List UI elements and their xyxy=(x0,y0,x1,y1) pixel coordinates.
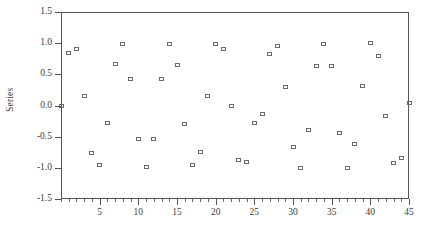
x-axis-minor-tick xyxy=(200,199,201,202)
y-axis-tick-label: 0.5 xyxy=(18,69,52,79)
x-axis-minor-tick xyxy=(347,199,348,202)
y-axis-tick xyxy=(55,43,61,44)
x-axis-minor-tick xyxy=(401,199,402,202)
y-axis-tick xyxy=(55,137,61,138)
x-axis-minor-tick xyxy=(92,199,93,202)
x-axis-minor-tick xyxy=(308,199,309,202)
x-axis-tick xyxy=(177,199,178,205)
x-axis-minor-tick xyxy=(386,199,387,202)
x-axis-tick xyxy=(138,199,139,205)
x-axis-tick-label: 45 xyxy=(397,207,421,217)
x-axis-minor-tick xyxy=(115,199,116,202)
x-axis-tick-label: 35 xyxy=(320,207,344,217)
x-axis-minor-tick xyxy=(278,199,279,202)
x-axis-tick xyxy=(293,199,294,205)
y-axis-tick xyxy=(55,12,61,13)
x-axis-minor-tick xyxy=(378,199,379,202)
scatter-chart-figure: Series 1.51.00.50.0-0.5-1.0-1.5 51015202… xyxy=(0,0,428,245)
x-axis-minor-tick xyxy=(208,199,209,202)
x-axis-tick xyxy=(370,199,371,205)
x-axis-tick xyxy=(409,199,410,205)
x-axis-tick-label: 15 xyxy=(165,207,189,217)
x-axis-minor-tick xyxy=(162,199,163,202)
x-axis-minor-tick xyxy=(285,199,286,202)
x-axis-tick-label: 40 xyxy=(358,207,382,217)
x-axis-minor-tick xyxy=(355,199,356,202)
x-axis-tick xyxy=(216,199,217,205)
x-axis-minor-tick xyxy=(270,199,271,202)
x-axis-minor-tick xyxy=(262,199,263,202)
y-axis-tick xyxy=(55,74,61,75)
x-axis-minor-tick xyxy=(131,199,132,202)
x-axis-minor-tick xyxy=(192,199,193,202)
x-axis-minor-tick xyxy=(84,199,85,202)
x-axis-minor-tick xyxy=(169,199,170,202)
x-axis-minor-tick xyxy=(301,199,302,202)
x-axis-minor-tick xyxy=(247,199,248,202)
x-axis-tick-label: 20 xyxy=(204,207,228,217)
y-axis-tick-label: -0.5 xyxy=(18,132,52,142)
y-axis-tick xyxy=(55,168,61,169)
x-axis-minor-tick xyxy=(239,199,240,202)
plot-area xyxy=(61,12,409,199)
x-axis-tick xyxy=(100,199,101,205)
x-axis-tick-label: 25 xyxy=(242,207,266,217)
x-axis-minor-tick xyxy=(123,199,124,202)
x-axis-minor-tick xyxy=(76,199,77,202)
x-axis-tick xyxy=(254,199,255,205)
y-axis-tick-label: -1.0 xyxy=(18,163,52,173)
x-axis-minor-tick xyxy=(394,199,395,202)
x-axis-minor-tick xyxy=(339,199,340,202)
y-axis-tick xyxy=(55,106,61,107)
y-axis-tick-label: -1.5 xyxy=(18,194,52,204)
y-axis-tick-label: 1.0 xyxy=(18,38,52,48)
x-axis-tick-label: 30 xyxy=(281,207,305,217)
x-axis-minor-tick xyxy=(324,199,325,202)
x-axis-minor-tick xyxy=(316,199,317,202)
x-axis-minor-tick xyxy=(61,199,62,202)
x-axis-minor-tick xyxy=(185,199,186,202)
y-axis-tick-label: 1.5 xyxy=(18,7,52,17)
y-axis-label: Series xyxy=(2,0,18,200)
x-axis-minor-tick xyxy=(223,199,224,202)
x-axis-minor-tick xyxy=(146,199,147,202)
x-axis-minor-tick xyxy=(363,199,364,202)
x-axis-minor-tick xyxy=(69,199,70,202)
x-axis-tick-label: 5 xyxy=(88,207,112,217)
x-axis-tick xyxy=(332,199,333,205)
x-axis-minor-tick xyxy=(231,199,232,202)
x-axis-minor-tick xyxy=(154,199,155,202)
x-axis-tick-label: 10 xyxy=(126,207,150,217)
x-axis-minor-tick xyxy=(107,199,108,202)
y-axis-tick-label: 0.0 xyxy=(18,101,52,111)
